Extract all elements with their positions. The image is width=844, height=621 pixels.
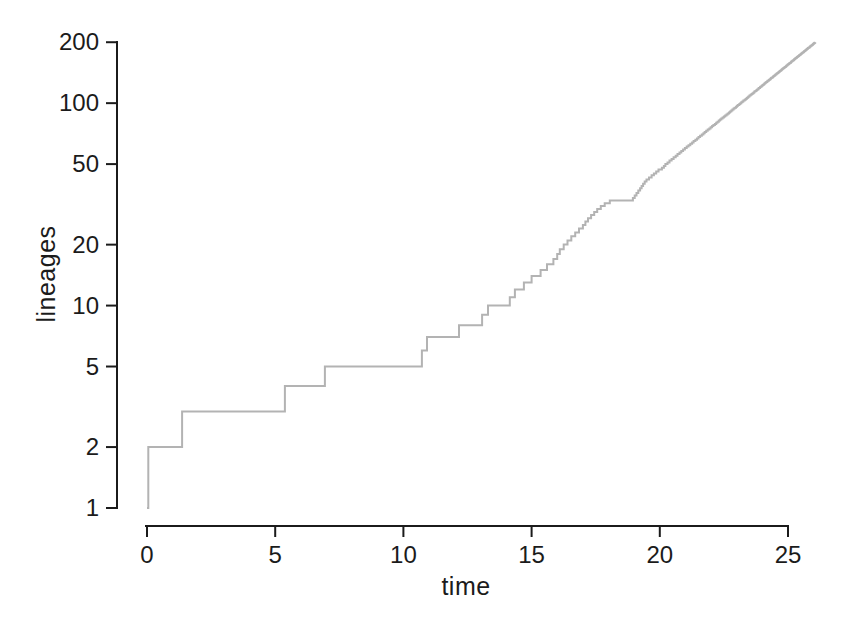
x-tick-label: 0 xyxy=(140,541,153,568)
y-tick-label: 100 xyxy=(59,89,99,116)
y-tick-label: 50 xyxy=(72,150,99,177)
y-axis-title: lineages xyxy=(32,225,61,322)
x-axis: 0510152025 xyxy=(140,526,801,568)
y-tick-label: 10 xyxy=(72,292,99,319)
y-tick-label: 2 xyxy=(86,433,99,460)
lineage-step-line xyxy=(147,42,815,508)
x-tick-label: 15 xyxy=(518,541,545,568)
y-axis: 125102050100200 xyxy=(59,28,117,521)
x-tick-label: 10 xyxy=(390,541,417,568)
x-tick-label: 25 xyxy=(775,541,802,568)
y-tick-label: 20 xyxy=(72,231,99,258)
x-tick-label: 5 xyxy=(269,541,282,568)
y-tick-label: 5 xyxy=(86,353,99,380)
x-tick-label: 20 xyxy=(646,541,673,568)
x-axis-title: time xyxy=(441,572,490,601)
y-tick-label: 200 xyxy=(59,28,99,55)
ltt-chart: 125102050100200 0510152025 xyxy=(0,0,844,621)
ltt-figure: 125102050100200 0510152025 time lineages xyxy=(0,0,844,621)
y-tick-label: 1 xyxy=(86,494,99,521)
